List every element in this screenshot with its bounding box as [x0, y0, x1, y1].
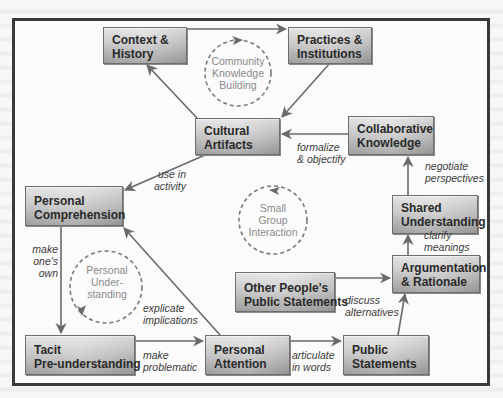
edge-label-formalize-objectify: formalize & objectify — [297, 141, 345, 165]
node-shared-understanding: Shared Understanding — [392, 195, 478, 234]
cycle-small-group-arrowhead-icon — [269, 187, 280, 195]
cycle-label-community-knowledge-building: Community Knowledge Building — [203, 55, 273, 91]
edge-label-clarify-meanings: clarify meanings — [424, 229, 470, 253]
node-practices-institutions: Practices & Institutions — [288, 27, 372, 64]
node-public-statements: Public Statements — [343, 335, 429, 375]
node-personal-attention: Personal Attention — [205, 335, 290, 375]
edge-label-explicate-implications: explicate implications — [143, 302, 198, 326]
edge-label-use-in-activity: use in activity — [150, 168, 186, 192]
node-argumentation-rationale: Argumentation & Rationale — [392, 255, 480, 293]
node-collaborative-knowledge: Collaborative Knowledge — [348, 116, 434, 155]
node-cultural-artifacts: Cultural Artifacts — [195, 118, 280, 155]
cycle-label-personal-understanding: Personal Under- standing — [76, 264, 138, 300]
node-other-peoples-public-statements: Other People's Public Statements — [235, 272, 335, 312]
node-personal-comprehension: Personal Comprehension — [25, 186, 123, 226]
cycle-label-small-group-interaction: Small Group Interaction — [238, 202, 308, 238]
arrow-practices-to-artifacts — [282, 63, 330, 117]
node-context-history: Context & History — [103, 27, 187, 64]
edge-label-make-ones-own: make one's own — [26, 243, 58, 279]
edge-label-discuss-alternatives: discuss alternatives — [345, 294, 399, 318]
arrow-public-to-argumentation — [398, 294, 405, 335]
edge-label-articulate-in-words: articulate in words — [292, 349, 335, 373]
arrow-artifacts-to-context — [147, 65, 197, 118]
edge-label-make-problematic: make problematic — [143, 349, 197, 373]
node-tacit-preunderstanding: Tacit Pre-understanding — [25, 335, 135, 375]
edge-label-negotiate-perspectives: negotiate perspectives — [425, 160, 484, 184]
